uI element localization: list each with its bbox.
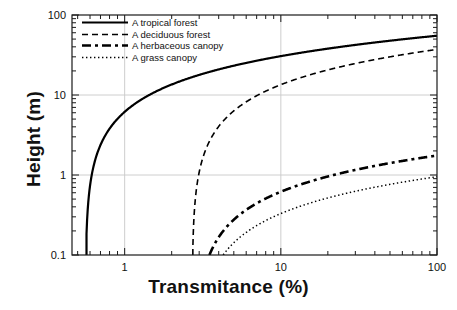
legend-line-swatch — [82, 29, 128, 40]
x-axis-title: Transmitance (%) — [0, 276, 457, 298]
data-series-line — [224, 177, 437, 255]
legend-item: A herbaceous canopy — [82, 40, 223, 52]
x-tick-label: 1 — [122, 261, 128, 273]
x-tick-label: 10 — [275, 261, 287, 273]
legend-item-label: A herbaceous canopy — [132, 40, 223, 51]
legend-item: A tropical forest — [82, 17, 223, 29]
y-tick-label: 0.1 — [28, 249, 66, 261]
data-curves-layer — [87, 36, 437, 255]
chart-legend: A tropical forestA deciduous forestA her… — [82, 17, 223, 63]
x-tick-label: 100 — [428, 261, 446, 273]
data-series-line — [210, 156, 437, 255]
y-axis-title: Height (m) — [23, 19, 45, 259]
legend-line-swatch — [82, 17, 128, 28]
legend-item-label: A tropical forest — [132, 17, 197, 28]
legend-item: A grass canopy — [82, 52, 223, 64]
y-tick-label: 1 — [28, 169, 66, 181]
chart-figure: Transmitance (%) Height (m) 110100 0.111… — [0, 0, 457, 310]
legend-item: A deciduous forest — [82, 29, 223, 41]
y-tick-label: 10 — [28, 89, 66, 101]
data-series-line — [87, 36, 437, 255]
legend-line-swatch — [82, 52, 128, 63]
legend-item-label: A grass canopy — [132, 52, 197, 63]
plot-canvas — [0, 0, 457, 310]
legend-line-swatch — [82, 40, 128, 51]
y-tick-label: 100 — [28, 9, 66, 21]
legend-item-label: A deciduous forest — [132, 29, 210, 40]
data-series-line — [193, 49, 437, 255]
